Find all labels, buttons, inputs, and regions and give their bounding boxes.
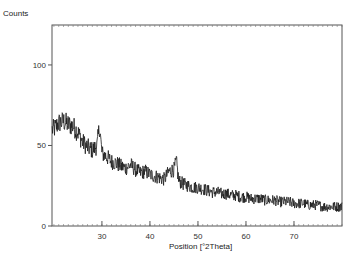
x-tick-label: 30 — [97, 232, 106, 241]
y-axis-ticks: 050100 — [33, 61, 52, 231]
x-tick-label: 40 — [145, 232, 154, 241]
x-axis-ticks: 3040506070 — [97, 221, 299, 241]
x-tick-label: 50 — [194, 232, 203, 241]
y-tick-label: 0 — [42, 222, 47, 231]
y-tick-label: 100 — [33, 61, 47, 70]
y-tick-label: 50 — [37, 141, 46, 150]
plot-frame — [52, 25, 342, 226]
xrd-line-chart: 050100 3040506070 — [0, 0, 356, 266]
data-series-line — [52, 113, 342, 212]
x-tick-label: 70 — [290, 232, 299, 241]
x-tick-label: 60 — [242, 232, 251, 241]
